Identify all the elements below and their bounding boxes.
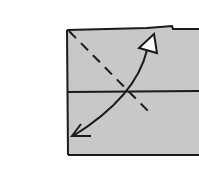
paper-left-edge (67, 30, 68, 155)
origami-diagram (0, 0, 199, 170)
horizontal-crease (68, 91, 199, 92)
